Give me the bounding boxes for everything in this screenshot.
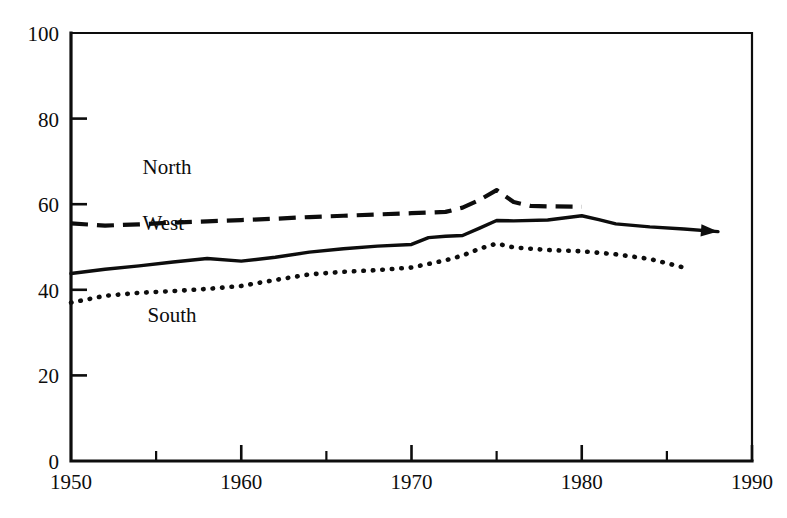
y-tick-label: 40 [38,279,59,303]
x-tick-label: 1980 [561,470,603,494]
y-tick-label: 80 [38,108,59,132]
x-tick-label: 1960 [220,470,262,494]
y-tick-label: 60 [38,193,59,217]
series-label-west: West [143,211,185,235]
x-tick-label: 1970 [391,470,433,494]
series-label-south: South [148,303,198,327]
chart-background [0,0,787,518]
x-tick-label: 1990 [731,470,773,494]
y-tick-label: 0 [49,450,60,474]
y-tick-label: 100 [28,22,60,46]
y-tick-label: 20 [38,364,59,388]
line-chart: 19501960197019801990 020406080100 NorthW… [0,0,787,518]
chart-canvas: 19501960197019801990 020406080100 NorthW… [0,0,787,518]
series-label-north: North [143,155,192,179]
